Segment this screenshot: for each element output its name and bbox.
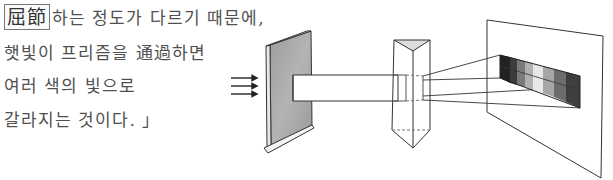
projection-screen xyxy=(487,20,603,178)
prism-dispersion-diagram xyxy=(0,0,613,180)
incoming-light-arrows-icon xyxy=(231,76,257,97)
light-beam xyxy=(293,75,398,101)
